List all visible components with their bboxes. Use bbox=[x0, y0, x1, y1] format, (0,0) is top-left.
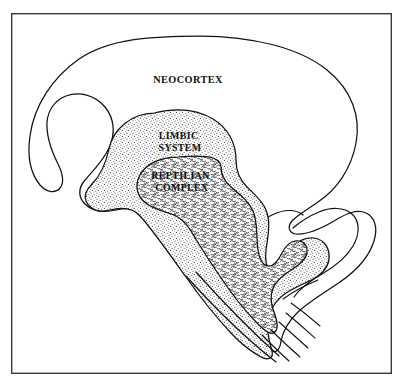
label-reptilian-line1: REPTILIAN bbox=[151, 170, 209, 181]
label-limbic-system: LIMBIC SYSTEM bbox=[158, 130, 201, 153]
triune-brain-diagram: NEOCORTEX LIMBIC SYSTEM REPTILIAN COMPLE… bbox=[0, 0, 401, 383]
label-reptilian-line2: COMPLEX bbox=[155, 182, 209, 193]
label-neocortex: NEOCORTEX bbox=[153, 74, 223, 85]
figure-root: NEOCORTEX LIMBIC SYSTEM REPTILIAN COMPLE… bbox=[0, 0, 401, 383]
label-limbic-line2: SYSTEM bbox=[158, 142, 201, 153]
label-limbic-line1: LIMBIC bbox=[159, 130, 199, 141]
label-reptilian-complex: REPTILIAN COMPLEX bbox=[151, 170, 212, 193]
